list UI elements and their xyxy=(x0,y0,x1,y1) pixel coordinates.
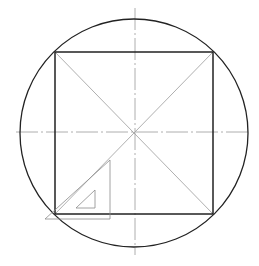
geometry-diagram xyxy=(0,0,259,266)
set-square-inner xyxy=(76,190,95,208)
